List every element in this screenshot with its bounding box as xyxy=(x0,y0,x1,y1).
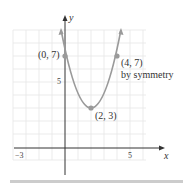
bottom-rule xyxy=(10,180,183,183)
y-axis-label: y xyxy=(69,13,73,23)
y-tick-5: 5 xyxy=(57,78,61,86)
parabola-chart xyxy=(0,0,183,184)
x-tick-neg3: −3 xyxy=(15,152,24,160)
point-0-7 xyxy=(62,53,67,58)
x-tick-5: 5 xyxy=(128,152,132,160)
point-label-4-7: (4, 7) xyxy=(121,58,143,68)
point-label-0-7: (0, 7) xyxy=(38,50,60,60)
x-axis-label: x xyxy=(164,151,168,161)
point-label-2-3: (2, 3) xyxy=(95,111,117,121)
symmetry-note: by symmetry xyxy=(121,70,174,80)
point-2-3 xyxy=(88,105,93,110)
point-4-7 xyxy=(114,53,119,58)
